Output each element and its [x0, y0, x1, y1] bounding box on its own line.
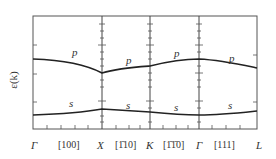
band-s-label: s	[69, 98, 73, 109]
point-l-label: L	[256, 140, 262, 151]
point-k-label: K	[146, 140, 153, 151]
point-x-label: X	[97, 140, 104, 151]
band-p-label-2: p	[126, 55, 132, 66]
direction-110-label: [1̄10]	[115, 140, 136, 150]
direction-111-label: [111]	[214, 140, 235, 150]
band-p-label-4: p	[229, 53, 235, 64]
point-gamma2-label: Γ	[196, 140, 202, 151]
band-structure-plot	[0, 0, 276, 159]
band-p-label-3: p	[174, 48, 180, 59]
band-p-curve	[33, 59, 257, 73]
band-s-curve	[33, 109, 257, 115]
point-gamma-label: Γ	[31, 140, 37, 151]
band-s-label-2: s	[126, 100, 130, 111]
band-s-label-4: s	[228, 100, 232, 111]
band-p-label: p	[72, 47, 78, 58]
direction-100-label: [100]	[58, 140, 80, 150]
y-axis-label: ε(k)	[7, 71, 19, 88]
band-s-label-3: s	[174, 102, 178, 113]
direction-1b1b0-label: [1̄1̄0]	[163, 140, 184, 150]
